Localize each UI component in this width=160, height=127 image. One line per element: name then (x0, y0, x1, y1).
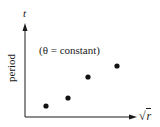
y-axis-label: period (6, 54, 17, 82)
data-point (114, 63, 119, 68)
data-points (43, 63, 119, 108)
x-axis (25, 115, 137, 120)
y-axis-arrow-icon (23, 23, 28, 31)
chart-canvas (0, 0, 160, 127)
y-axis (23, 23, 28, 117)
data-point (65, 95, 70, 100)
radical-sign: √ (139, 109, 146, 123)
chart-annotation: (θ = constant) (39, 45, 100, 56)
x-variable: r (146, 108, 152, 123)
x-axis-label: √r (139, 110, 151, 122)
x-axis-arrow-icon (129, 115, 137, 120)
y-axis-symbol: t (23, 8, 26, 19)
data-point (85, 74, 90, 79)
data-point (43, 103, 48, 108)
